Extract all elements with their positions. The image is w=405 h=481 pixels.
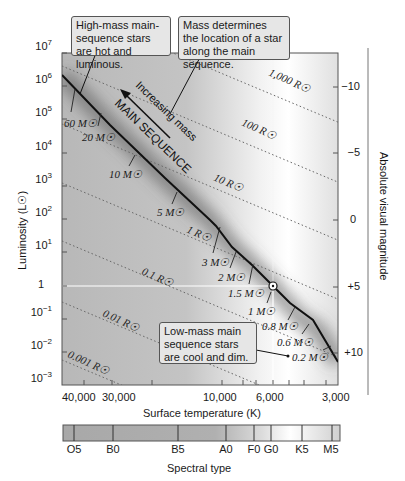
callout-mass-determines: Mass determines the location of a star a…: [178, 16, 290, 60]
spectral-bar: [63, 425, 340, 441]
y-axis-title: Luminosity (L☉): [16, 191, 28, 270]
spectral-axis-title: Spectral type: [167, 462, 231, 474]
callout-low-mass: Low-mass main sequence stars are cool an…: [159, 322, 257, 364]
callout-high-mass: High-mass main-sequence stars are hot an…: [71, 16, 171, 56]
y2-axis-title: Absolute visual magnitude: [378, 152, 390, 280]
x-axis-title: Surface temperature (K): [143, 407, 261, 419]
